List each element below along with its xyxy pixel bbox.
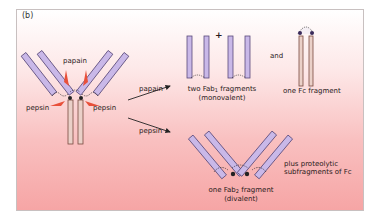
note-line-2: subfragments of Fc: [284, 168, 352, 176]
fc-fragment: [298, 27, 314, 86]
panel-label: (b): [22, 12, 33, 20]
pepsin-arrow-label: pepsin: [139, 127, 162, 135]
pepsin-left-site-label: pepsin: [26, 104, 49, 112]
papain-arrow-label: papain: [139, 85, 163, 93]
antibody-cleavage-diagram: [0, 0, 384, 222]
fab2-valency: (divalent): [224, 195, 258, 203]
fab2-fragment: [188, 131, 292, 179]
fab1-valency: (monovalent): [198, 94, 245, 102]
fab2-caption: one Fab2 fragment (divalent): [200, 186, 282, 203]
and-label: and: [270, 52, 283, 60]
fab1-caption-suffix: fragments: [218, 85, 256, 93]
pepsin-right-site-label: pepsin: [93, 104, 116, 112]
fc-caption: one Fc fragment: [283, 87, 341, 95]
fab2-caption-prefix: one Fab: [208, 186, 235, 194]
note-line-1: plus proteolytic: [284, 160, 338, 168]
fc-subfragments-note: plus proteolytic subfragments of Fc: [284, 160, 352, 176]
fab2-caption-suffix: fragment: [239, 186, 274, 194]
papain-site-label: papain: [63, 57, 87, 65]
plus-sign: +: [215, 31, 223, 39]
fab1-caption: two Fab1 fragments (monovalent): [186, 85, 258, 102]
fab1-fragments: [187, 36, 250, 78]
fab1-caption-prefix: two Fab: [188, 85, 215, 93]
